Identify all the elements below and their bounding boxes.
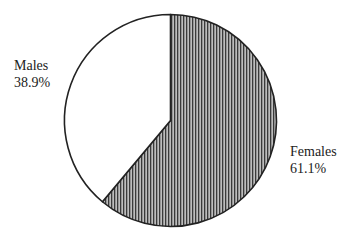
pie-chart <box>0 0 348 237</box>
label-females-name: Females <box>290 143 337 160</box>
label-males-name: Males <box>14 57 50 74</box>
label-males-pct: 38.9% <box>14 74 50 91</box>
label-females: Females 61.1% <box>290 143 337 177</box>
label-males: Males 38.9% <box>14 57 50 91</box>
label-females-pct: 61.1% <box>290 160 337 177</box>
